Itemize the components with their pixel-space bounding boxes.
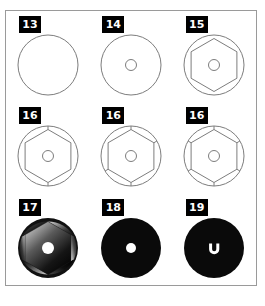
hub-circle-icon [209, 60, 220, 71]
panel-13-art [6, 29, 89, 99]
panel-15[interactable]: 15 [173, 11, 256, 102]
panel-18[interactable]: 18 [89, 194, 172, 285]
hub-hole-icon [42, 242, 54, 254]
hub-circle-icon [125, 60, 136, 71]
spoke-lower-left-icon [188, 170, 191, 172]
spoke-lower-left-icon [105, 170, 108, 172]
panel-16-c-label: 16 [187, 108, 207, 123]
figure-root: 13 14 15 [0, 0, 265, 306]
spoke-upper-right-icon [154, 141, 157, 143]
panel-18-label: 18 [103, 200, 123, 215]
outer-circle-icon [18, 35, 78, 95]
hub-circle-icon [209, 151, 220, 162]
panel-16-c[interactable]: 16 [173, 102, 256, 193]
panel-14[interactable]: 14 [89, 11, 172, 102]
panel-16-a-art [6, 120, 89, 190]
panel-16-a-label: 16 [20, 108, 40, 123]
panel-14-label: 14 [103, 17, 123, 32]
hub-circle-icon [125, 151, 136, 162]
panel-13-label: 13 [20, 17, 40, 32]
panel-19-art [173, 212, 256, 282]
figure-frame: 13 14 15 [5, 10, 257, 286]
panel-15-art [173, 29, 256, 99]
panel-17-label: 17 [20, 200, 40, 215]
solid-disc-icon [184, 218, 244, 278]
spoke-upper-right-icon [237, 141, 240, 143]
panel-14-art [89, 29, 172, 99]
spoke-upper-left-icon [188, 141, 191, 143]
hub-circle-icon [42, 151, 53, 162]
panel-18-art [89, 212, 172, 282]
panel-19[interactable]: 19 [173, 194, 256, 285]
panel-16-b-label: 16 [103, 108, 123, 123]
panel-15-label: 15 [187, 17, 207, 32]
panel-17[interactable]: 17 [6, 194, 89, 285]
panel-16-c-art [173, 120, 256, 190]
panel-16-b[interactable]: 16 [89, 102, 172, 193]
spoke-lower-right-icon [237, 170, 240, 172]
panel-19-label: 19 [187, 200, 207, 215]
panel-17-art [6, 212, 89, 282]
panel-16-a[interactable]: 16 [6, 102, 89, 193]
panel-16-b-art [89, 120, 172, 190]
panel-13[interactable]: 13 [6, 11, 89, 102]
hub-hole-icon [126, 243, 136, 253]
panel-grid: 13 14 15 [6, 11, 256, 285]
